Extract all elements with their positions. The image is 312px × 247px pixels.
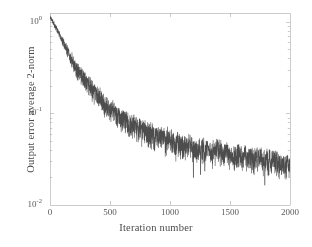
x-axis-label: Iteration number <box>0 222 312 233</box>
x-tick-label: 500 <box>90 207 130 217</box>
x-tick-label: 2000 <box>270 207 310 217</box>
y-tick-label: 100 <box>8 16 42 26</box>
x-tick-label: 1500 <box>210 207 250 217</box>
x-tick-label: 1000 <box>150 207 190 217</box>
y-tick-label: 10-1 <box>8 107 42 117</box>
y-tick-label: 10-2 <box>8 199 42 209</box>
figure-container: Iteration number Output error average 2-… <box>0 0 312 247</box>
